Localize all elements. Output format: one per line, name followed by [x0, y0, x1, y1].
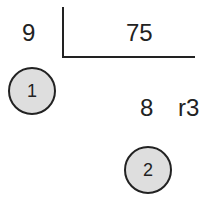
step-1-label: 1 [27, 81, 37, 102]
step-2-label: 2 [143, 160, 153, 181]
remainder: r3 [178, 96, 199, 120]
step-2-badge: 2 [124, 146, 172, 194]
step-1-badge: 1 [8, 67, 56, 115]
divisor: 9 [22, 21, 35, 45]
quotient: 8 [140, 96, 153, 120]
dividend: 75 [126, 21, 153, 45]
division-bracket-horizontal [62, 56, 195, 58]
division-bracket-vertical [62, 7, 64, 58]
